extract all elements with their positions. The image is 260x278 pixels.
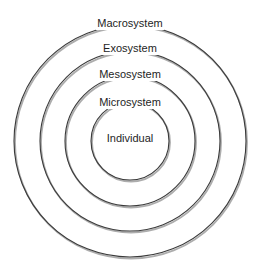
exosystem-label: Exosystem [103, 42, 157, 54]
macrosystem-label: Macrosystem [97, 17, 162, 29]
individual-label: Individual [107, 132, 153, 144]
ecological-systems-diagram: Macrosystem Exosystem Mesosystem Microsy… [0, 0, 260, 278]
mesosystem-label: Mesosystem [99, 68, 161, 80]
microsystem-label: Microsystem [99, 96, 161, 108]
